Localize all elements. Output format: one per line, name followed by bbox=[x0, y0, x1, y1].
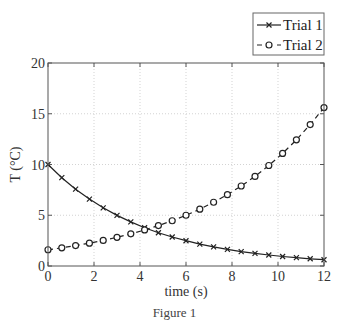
x-marker bbox=[73, 187, 78, 192]
circle-marker bbox=[211, 199, 217, 205]
axis-ticks: 02468101205101520 bbox=[31, 56, 331, 284]
grid-lines bbox=[48, 63, 324, 266]
legend-label-trial-1: Trial 1 bbox=[283, 17, 323, 33]
circle-marker bbox=[266, 163, 272, 169]
circle-marker bbox=[128, 231, 134, 237]
circle-marker bbox=[169, 218, 175, 224]
circle-marker bbox=[59, 245, 65, 251]
legend: Trial 1 Trial 2 bbox=[253, 13, 324, 55]
circle-marker bbox=[183, 212, 189, 218]
x-tick-label: 6 bbox=[183, 269, 190, 284]
x-tick-label: 0 bbox=[45, 269, 52, 284]
x-marker bbox=[128, 219, 133, 224]
x-marker bbox=[101, 205, 106, 210]
circle-marker bbox=[238, 183, 244, 189]
circle-marker bbox=[114, 234, 120, 240]
circle-marker bbox=[293, 137, 299, 143]
x-marker bbox=[115, 213, 120, 218]
circle-marker bbox=[252, 173, 258, 179]
y-tick-label: 10 bbox=[31, 158, 45, 173]
x-tick-label: 8 bbox=[229, 269, 236, 284]
x-marker bbox=[59, 175, 64, 180]
circle-marker bbox=[142, 227, 148, 233]
circle-marker bbox=[197, 206, 203, 212]
x-axis-label: time (s) bbox=[164, 284, 207, 300]
circle-marker bbox=[73, 243, 79, 249]
y-tick-label: 20 bbox=[31, 56, 45, 71]
circle-marker bbox=[307, 122, 313, 128]
circle-marker bbox=[100, 237, 106, 243]
legend-label-trial-2: Trial 2 bbox=[283, 37, 323, 53]
x-tick-label: 12 bbox=[317, 269, 331, 284]
circle-marker bbox=[224, 192, 230, 198]
y-tick-label: 15 bbox=[31, 107, 45, 122]
x-tick-label: 2 bbox=[91, 269, 98, 284]
y-tick-label: 0 bbox=[38, 259, 45, 274]
x-marker bbox=[87, 197, 92, 202]
circle-marker-icon bbox=[266, 42, 272, 48]
figure-canvas: 02468101205101520 time (s) T (°C) Trial … bbox=[0, 0, 349, 305]
circle-marker bbox=[86, 240, 92, 246]
figure-caption: Figure 1 bbox=[0, 305, 349, 321]
circle-marker bbox=[280, 150, 286, 156]
circle-marker bbox=[155, 223, 161, 229]
x-tick-label: 4 bbox=[137, 269, 144, 284]
y-tick-label: 5 bbox=[38, 208, 45, 223]
x-tick-label: 10 bbox=[271, 269, 285, 284]
y-axis-label: T (°C) bbox=[8, 146, 24, 182]
